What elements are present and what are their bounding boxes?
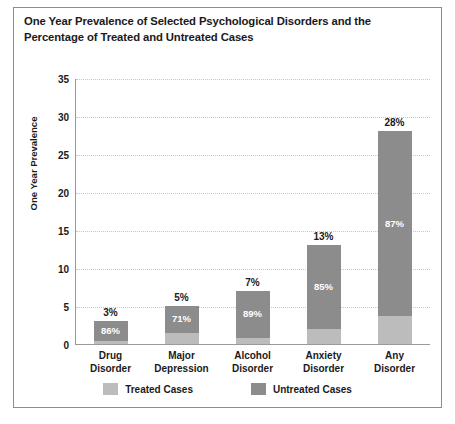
bar-untreated-pct-label: 71% [172, 313, 191, 324]
x-tick-label: AnyDisorder [352, 350, 438, 375]
legend-swatch-untreated [251, 383, 266, 395]
bar-segment-treated [378, 316, 412, 344]
bar-total-label: 3% [103, 307, 117, 318]
bar-major-depression[interactable]: 5%71% [165, 306, 199, 344]
y-tick-label: 0 [43, 340, 69, 351]
bar-alcohol-disorder[interactable]: 7%89% [236, 291, 270, 344]
bar-drug-disorder[interactable]: 3%86% [94, 321, 128, 344]
y-tick-label: 20 [43, 188, 69, 199]
y-tick-label: 30 [43, 112, 69, 123]
bar-total-label: 13% [313, 231, 333, 242]
y-tick-label: 35 [43, 74, 69, 85]
chart-legend: Treated CasesUntreated Cases [0, 383, 455, 395]
y-tick-label: 25 [43, 150, 69, 161]
bar-untreated-pct-label: 87% [385, 218, 404, 229]
legend-swatch-treated [103, 383, 118, 395]
bar-segment-treated [236, 338, 270, 344]
gridline [76, 117, 430, 118]
bar-untreated-pct-label: 86% [101, 325, 120, 336]
bar-anxiety-disorder[interactable]: 13%85% [307, 245, 341, 344]
bar-segment-treated [307, 329, 341, 344]
y-axis-ticks: 05101520253035 [41, 79, 69, 345]
y-tick-label: 5 [43, 302, 69, 313]
plot-area: 3%86%5%71%7%89%13%85%28%87% [75, 79, 430, 345]
bar-untreated-pct-label: 85% [314, 281, 333, 292]
y-tick-label: 15 [43, 226, 69, 237]
legend-item[interactable]: Treated Cases [103, 383, 193, 395]
y-axis-title: One Year Prevalence [28, 104, 39, 224]
chart-figure: One Year Prevalence of Selected Psycholo… [0, 0, 455, 424]
bar-any-disorder[interactable]: 28%87% [378, 131, 412, 344]
x-axis-line [75, 344, 430, 345]
legend-label: Untreated Cases [273, 384, 352, 395]
legend-label: Treated Cases [125, 384, 193, 395]
bar-segment-treated [165, 333, 199, 344]
bar-untreated-pct-label: 89% [243, 308, 262, 319]
x-tick-label-line: Disorder [352, 363, 438, 376]
bar-total-label: 7% [245, 277, 259, 288]
bar-total-label: 28% [384, 117, 404, 128]
y-axis-line [75, 79, 76, 345]
gridline [76, 79, 430, 80]
y-tick-label: 10 [43, 264, 69, 275]
legend-item[interactable]: Untreated Cases [251, 383, 352, 395]
x-tick-label-line: Any [352, 350, 438, 363]
bar-segment-treated [94, 341, 128, 344]
chart-title: One Year Prevalence of Selected Psycholo… [24, 14, 424, 45]
bar-total-label: 5% [174, 292, 188, 303]
